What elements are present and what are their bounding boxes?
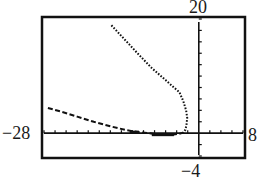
graph-plot (0, 0, 268, 180)
ymin-label: −4 (181, 162, 200, 180)
lower-branch-curve (48, 108, 183, 135)
axes (44, 19, 243, 156)
xmin-label: −28 (2, 124, 30, 142)
ymax-label: 20 (189, 0, 207, 16)
upper-branch-curve (111, 25, 187, 132)
curves (48, 25, 187, 135)
xmax-label: 8 (248, 126, 257, 144)
window-frame (42, 17, 245, 158)
